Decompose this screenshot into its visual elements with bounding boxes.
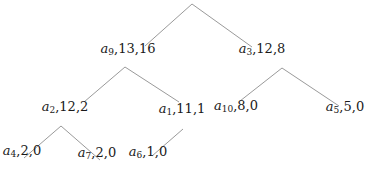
node-values: ,5,0 <box>339 99 364 114</box>
node-variable: a <box>3 143 11 158</box>
node-variable: a <box>78 145 86 160</box>
tree-node-n9: a9,13,16 <box>101 41 156 56</box>
node-values: ,12,2 <box>55 99 88 114</box>
node-variable: a <box>326 99 334 114</box>
node-variable: a <box>159 101 167 116</box>
node-variable: a <box>239 41 247 56</box>
tree-node-n4: a4,2,0 <box>3 143 41 158</box>
node-values: ,11,1 <box>172 101 205 116</box>
tree-edges <box>0 0 368 175</box>
tree-edge <box>84 67 125 102</box>
node-values: ,1,0 <box>142 144 167 159</box>
tree-node-n3: a3,12,8 <box>239 41 286 56</box>
node-values: ,8,0 <box>233 98 258 113</box>
node-variable: a <box>101 41 109 56</box>
tree-node-n7: a7,2,0 <box>78 145 116 160</box>
node-variable: a <box>129 144 137 159</box>
tree-diagram: a9,13,16a3,12,8a2,12,2a1,11,1a10,8,0a5,5… <box>0 0 368 175</box>
tree-edge <box>240 68 282 101</box>
node-values: ,13,16 <box>114 41 155 56</box>
tree-node-n2: a2,12,2 <box>42 99 89 114</box>
tree-edge <box>145 4 192 46</box>
node-variable: a <box>42 99 50 114</box>
tree-node-n5: a5,5,0 <box>326 99 364 114</box>
tree-edge <box>125 67 179 102</box>
node-subscript: 10 <box>222 104 233 114</box>
node-variable: a <box>214 98 222 113</box>
node-values: ,2,0 <box>91 145 116 160</box>
tree-node-n10: a10,8,0 <box>214 98 258 113</box>
node-values: ,2,0 <box>16 143 41 158</box>
tree-node-n1: a1,11,1 <box>159 101 206 116</box>
tree-node-n6: a6,1,0 <box>129 144 167 159</box>
node-values: ,12,8 <box>252 41 285 56</box>
